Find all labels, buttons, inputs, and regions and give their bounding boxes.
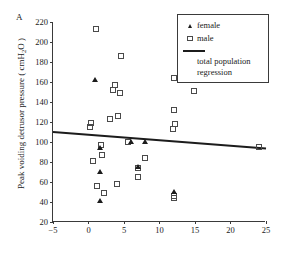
y-tick-label: 100 xyxy=(35,137,48,147)
y-tick-label: 140 xyxy=(35,97,48,107)
y-tick-label: 80 xyxy=(40,157,49,167)
male-data-point xyxy=(171,75,177,81)
x-tick-label: 5 xyxy=(122,225,126,235)
legend-item-regression: total population regression xyxy=(183,56,263,78)
x-tick-label: 25 xyxy=(262,225,271,235)
y-tick-label: 180 xyxy=(35,57,48,67)
y-tick-label: 120 xyxy=(35,117,48,127)
male-data-point xyxy=(117,90,123,96)
y-tick-label: 60 xyxy=(40,177,49,187)
female-data-point xyxy=(97,145,103,150)
female-data-point xyxy=(97,169,103,174)
x-tick-label: 20 xyxy=(226,225,235,235)
y-tick-label: 20 xyxy=(40,217,49,227)
male-data-point xyxy=(94,183,100,189)
male-data-point xyxy=(171,195,177,201)
female-data-point xyxy=(142,139,148,144)
x-tick-label: −5 xyxy=(48,225,57,235)
male-data-point xyxy=(170,126,176,132)
female-data-point xyxy=(135,164,141,169)
y-axis-title-text: Peak voiding detrusor pressure ( cmH xyxy=(16,53,26,189)
line-swatch-icon xyxy=(183,50,211,52)
x-tick-label: 15 xyxy=(191,225,200,235)
male-data-point xyxy=(107,116,113,122)
x-tick-label: 0 xyxy=(86,225,90,235)
y-axis-title-subscript: 2 xyxy=(20,50,27,53)
male-data-point xyxy=(90,158,96,164)
male-data-point xyxy=(118,53,124,59)
male-data-point xyxy=(142,155,148,161)
plot-area: 20406080100120140160180200220 −505101520… xyxy=(52,22,265,222)
male-data-point xyxy=(135,174,141,180)
male-data-point xyxy=(93,26,99,32)
y-tick-label: 200 xyxy=(35,37,48,47)
female-data-point xyxy=(128,139,134,144)
female-data-point xyxy=(92,77,98,82)
legend-item-regression-swatch xyxy=(183,45,263,56)
x-tick-label: 10 xyxy=(155,225,164,235)
female-data-point xyxy=(97,198,103,203)
legend-item-male: male xyxy=(183,32,263,45)
figure-panel-a: A Peak voiding detrusor pressure ( cmH2O… xyxy=(0,0,281,262)
y-tick-label: 40 xyxy=(40,197,49,207)
male-data-point xyxy=(99,152,105,158)
male-data-point xyxy=(114,181,120,187)
male-data-point xyxy=(171,107,177,113)
male-data-point xyxy=(191,88,197,94)
legend-label-regression-line1: total population xyxy=(197,56,263,67)
male-data-point xyxy=(256,144,262,150)
male-data-point xyxy=(87,124,93,130)
filled-triangle-icon xyxy=(183,24,197,28)
male-data-point xyxy=(101,190,107,196)
y-tick-label: 220 xyxy=(35,17,48,27)
legend-label-regression-line2: regression xyxy=(197,67,263,78)
male-data-point xyxy=(110,87,116,93)
y-axis-title-tail: O ) xyxy=(16,38,26,50)
y-axis-title: Peak voiding detrusor pressure ( cmH2O ) xyxy=(16,19,27,209)
legend-label-male: male xyxy=(197,34,214,43)
y-tick-label: 160 xyxy=(35,77,48,87)
legend-item-female: female xyxy=(183,19,263,32)
legend: female male total population regression xyxy=(177,14,269,83)
male-data-point xyxy=(115,113,121,119)
female-data-point xyxy=(171,189,177,194)
open-square-icon xyxy=(183,36,197,41)
legend-label-female: female xyxy=(197,21,220,30)
